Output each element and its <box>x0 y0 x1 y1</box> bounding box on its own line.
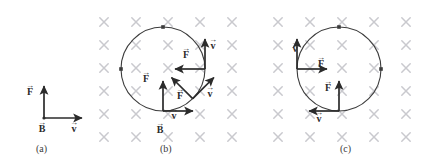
orbit-marker-left-b <box>119 67 123 71</box>
field-into-page-x-icon <box>402 110 410 118</box>
field-into-page-x-icon <box>132 87 140 95</box>
field-into-page-x-icon <box>338 133 346 141</box>
field-into-page-x-icon <box>402 64 410 72</box>
vector-label-v-b-3: →v <box>206 86 214 99</box>
field-into-page-x-icon <box>228 18 236 26</box>
field-into-page-x-icon <box>100 133 108 141</box>
field-into-page-x-icon <box>164 18 172 26</box>
field-into-page-x-icon <box>132 64 140 72</box>
vector-label-f-a-0: →F <box>26 84 34 97</box>
field-into-page-x-icon <box>370 133 378 141</box>
field-into-page-x-icon <box>402 18 410 26</box>
field-into-page-x-icon <box>274 41 282 49</box>
field-into-page-x-icon <box>306 133 314 141</box>
field-into-page-x-icon <box>164 133 172 141</box>
vector-label-b-a-2: →B <box>38 121 46 134</box>
field-into-page-x-icon <box>402 41 410 49</box>
field-into-page-x-icon <box>100 64 108 72</box>
vector-label-f-b-0: →F <box>142 71 150 84</box>
figure-canvas <box>0 0 438 165</box>
vector-label-v-c-3: →v <box>315 111 323 124</box>
vector-label-f-c-1: →F <box>317 56 325 69</box>
field-into-page-x-icon <box>370 18 378 26</box>
vector-label-f-c-2: →F <box>324 80 332 93</box>
field-into-page-x-icon <box>132 18 140 26</box>
field-into-page-x-icon <box>132 41 140 49</box>
field-into-page-x-icon <box>306 87 314 95</box>
vector-label-v-b-1: →v <box>170 108 178 121</box>
field-into-page-x-icon <box>132 110 140 118</box>
vector-label-f-b-4: →F <box>182 47 190 60</box>
field-into-page-x-icon <box>274 133 282 141</box>
field-into-page-x-icon <box>228 133 236 141</box>
vector-label-v-c-0: →v <box>291 41 299 54</box>
field-into-page-x-icon <box>164 87 172 95</box>
orbit-marker-right-c <box>379 67 383 71</box>
field-into-page-x-icon <box>228 87 236 95</box>
field-into-page-x-icon <box>338 64 346 72</box>
field-into-page-x-icon <box>402 133 410 141</box>
field-into-page-x-icon <box>228 64 236 72</box>
field-into-page-x-icon <box>100 110 108 118</box>
panel-caption-c: (c) <box>340 143 351 154</box>
field-into-page-x-icon <box>228 110 236 118</box>
field-into-page-x-icon <box>100 87 108 95</box>
physics-figure: →F→v→B(a)→F→v→F→v→F→v→B(b)→v→F→F→v(c) <box>0 0 438 165</box>
field-into-page-x-icon <box>196 18 204 26</box>
field-into-page-x-icon <box>370 64 378 72</box>
field-into-page-x-icon <box>370 110 378 118</box>
field-into-page-x-icon <box>196 133 204 141</box>
orbit-marker-top-c <box>337 25 341 29</box>
panel-caption-a: (a) <box>36 143 47 154</box>
field-into-page-x-icon <box>228 41 236 49</box>
field-into-page-x-icon <box>306 18 314 26</box>
field-into-page-x-icon <box>274 110 282 118</box>
field-into-page-x-icon <box>306 64 314 72</box>
field-into-page-x-icon <box>132 133 140 141</box>
field-into-page-x-icon <box>338 41 346 49</box>
orbit-marker-top-b <box>161 25 165 29</box>
field-into-page-x-icon <box>100 18 108 26</box>
vector-label-v-b-5: →v <box>209 38 217 51</box>
field-into-page-x-icon <box>196 110 204 118</box>
vector-label-v-a-1: →v <box>70 121 78 134</box>
field-into-page-x-icon <box>274 64 282 72</box>
field-into-page-x-icon <box>402 87 410 95</box>
panel-caption-b: (b) <box>160 143 172 154</box>
field-into-page-x-icon <box>164 64 172 72</box>
field-into-page-x-icon <box>274 18 282 26</box>
field-label-b: →B <box>156 122 164 135</box>
vector-label-f-b-2: →F <box>176 88 184 101</box>
field-into-page-x-icon <box>274 87 282 95</box>
field-into-page-x-icon <box>196 64 204 72</box>
field-into-page-x-icon <box>100 41 108 49</box>
field-into-page-x-icon <box>338 18 346 26</box>
field-into-page-x-icon <box>164 41 172 49</box>
